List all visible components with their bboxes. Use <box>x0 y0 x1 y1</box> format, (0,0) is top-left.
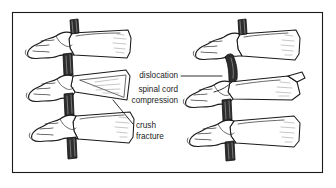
label-crush-fracture-line1: crush <box>136 121 156 130</box>
spinal-cord-segment-3 <box>64 93 74 116</box>
spinal-cord-segment-4 <box>67 137 77 159</box>
label-spinal-cord-line2: compression <box>132 96 179 105</box>
spinal-cord-segment-6 <box>222 99 232 121</box>
spinal-cord-segment-7 <box>225 141 235 161</box>
spine-injury-figure: dislocation spinal cord compression crus… <box>0 0 336 188</box>
spinal-cord-segment-5 <box>238 19 247 35</box>
label-spinal-cord-line1: spinal cord <box>138 85 178 94</box>
illustration-canvas: dislocation spinal cord compression crus… <box>0 0 336 188</box>
label-dislocation: dislocation <box>139 71 178 80</box>
spinal-cord-segment-2 <box>63 53 73 76</box>
spinal-cord-segment-1 <box>70 19 79 34</box>
label-crush-fracture-line2: fracture <box>136 132 164 141</box>
